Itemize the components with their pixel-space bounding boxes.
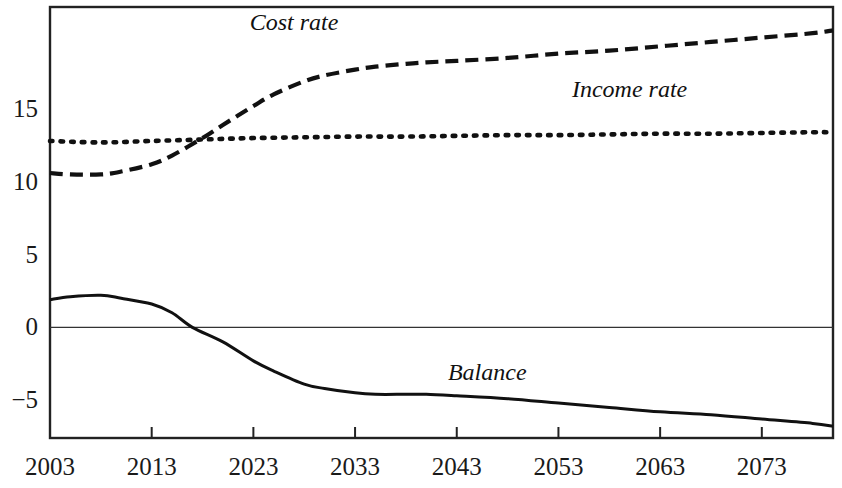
y-axis-label-15: 15 bbox=[13, 96, 38, 121]
chart-plot-area bbox=[0, 0, 842, 488]
x-axis-label-2073: 2073 bbox=[727, 454, 797, 479]
y-axis-label-10: 10 bbox=[13, 169, 38, 194]
series-label-balance: Balance bbox=[448, 360, 527, 384]
series-label-cost-rate: Cost rate bbox=[250, 10, 339, 34]
series-lines bbox=[50, 30, 833, 426]
series-line-income-rate bbox=[50, 132, 833, 142]
chart-container: 151050−5 2003201320232033204320532063207… bbox=[0, 0, 842, 488]
axis-ticks bbox=[152, 427, 762, 438]
y-axis-label-neg5: −5 bbox=[11, 387, 38, 412]
x-axis-label-2023: 2023 bbox=[218, 454, 288, 479]
plot-frame bbox=[50, 7, 833, 438]
series-line-cost-rate bbox=[50, 30, 833, 174]
x-axis-label-2033: 2033 bbox=[320, 454, 390, 479]
x-axis-label-2063: 2063 bbox=[625, 454, 695, 479]
x-axis-label-2013: 2013 bbox=[117, 454, 187, 479]
x-axis-label-2053: 2053 bbox=[523, 454, 593, 479]
x-axis-label-2043: 2043 bbox=[422, 454, 492, 479]
x-axis-label-2003: 2003 bbox=[15, 454, 85, 479]
y-axis-label-5: 5 bbox=[26, 242, 39, 267]
series-line-balance bbox=[50, 295, 833, 426]
y-axis-label-0: 0 bbox=[26, 314, 39, 339]
series-label-income-rate: Income rate bbox=[572, 77, 687, 101]
